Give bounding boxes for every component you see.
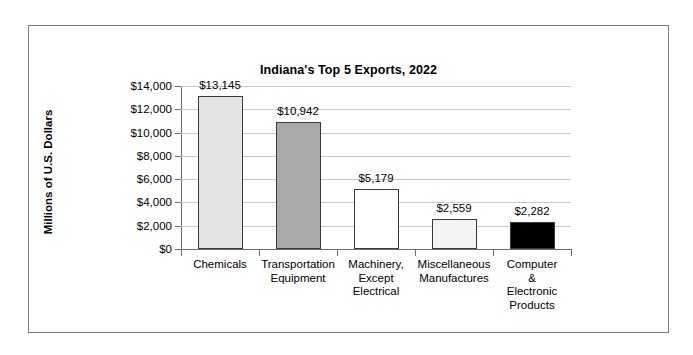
bar-value-label: $5,179: [358, 172, 393, 184]
y-axis-tick-label: $10,000: [130, 127, 172, 139]
y-axis-title: Millions of U.S. Dollars: [42, 87, 54, 257]
y-axis-tick-label: $0: [159, 243, 172, 255]
bar: [510, 222, 555, 249]
x-axis-category-label: Miscellaneous Manufactures: [418, 258, 491, 285]
y-axis-tick: [175, 133, 181, 134]
y-axis-tick: [175, 179, 181, 180]
bar: [432, 219, 477, 249]
y-axis-tick: [175, 202, 181, 203]
y-axis-line: [181, 86, 182, 249]
y-axis-tick: [175, 226, 181, 227]
y-axis-tick-label: $2,000: [137, 220, 172, 232]
bar-value-label: $13,145: [199, 79, 241, 91]
y-axis-tick: [175, 86, 181, 87]
x-axis-tick: [571, 249, 572, 256]
bar-value-label: $2,282: [514, 205, 549, 217]
y-axis-tick-label: $12,000: [130, 103, 172, 115]
x-axis-category-label: Computer & Electronic Products: [507, 258, 558, 312]
axis-baseline: [181, 249, 571, 250]
bar: [198, 96, 243, 249]
y-axis-tick-label: $4,000: [137, 196, 172, 208]
y-axis-tick: [175, 156, 181, 157]
x-axis-category-label: Transportation Equipment: [261, 258, 335, 285]
bar: [354, 189, 399, 249]
chart-frame: Indiana's Top 5 Exports, 2022 Millions o…: [28, 25, 669, 333]
bar: [276, 122, 321, 249]
x-axis-tick: [259, 249, 260, 256]
x-axis-tick: [181, 249, 182, 256]
y-axis-tick: [175, 109, 181, 110]
x-axis-tick: [415, 249, 416, 256]
bar-value-label: $2,559: [436, 202, 471, 214]
y-axis-tick-label: $6,000: [137, 173, 172, 185]
x-axis-category-label: Machinery, Except Electrical: [348, 258, 403, 299]
x-axis-tick: [337, 249, 338, 256]
x-axis-tick: [493, 249, 494, 256]
x-axis-category-label: Chemicals: [193, 258, 247, 272]
y-axis-tick-label: $14,000: [130, 80, 172, 92]
bar-value-label: $10,942: [277, 105, 319, 117]
y-axis-tick-label: $8,000: [137, 150, 172, 162]
plot-area: $0$2,000$4,000$6,000$8,000$10,000$12,000…: [181, 86, 571, 249]
chart-title: Indiana's Top 5 Exports, 2022: [29, 63, 668, 77]
